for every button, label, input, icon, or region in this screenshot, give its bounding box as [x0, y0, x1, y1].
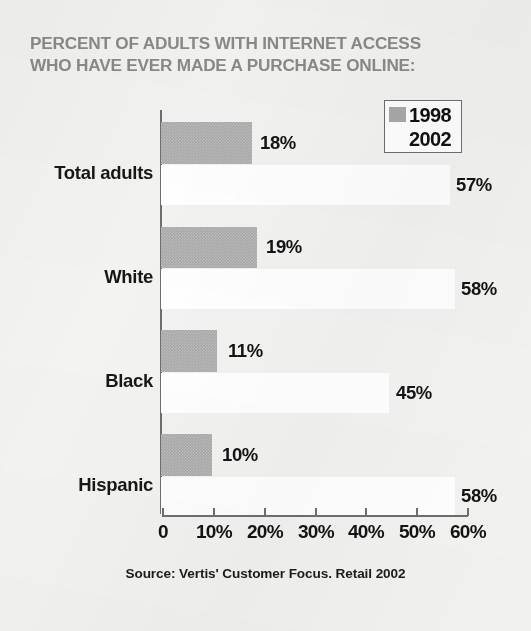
bar-value-total-adults-1998: 18% [260, 134, 296, 153]
bar-total-adults-2002 [161, 165, 450, 205]
bar-value-hispanic-1998: 10% [222, 446, 258, 465]
bar-black-1998 [161, 330, 217, 372]
bar-hispanic-1998 [161, 434, 212, 476]
category-label-total-adults: Total adults [54, 164, 153, 183]
source-note: Source: Vertis' Customer Focus. Retail 2… [0, 566, 531, 581]
bar-value-hispanic-2002: 58% [461, 487, 497, 506]
category-label-black: Black [105, 372, 153, 391]
category-label-white: White [104, 268, 153, 287]
bar-hispanic-2002 [161, 477, 455, 515]
chart-container: PERCENT OF ADULTS WITH INTERNET ACCESS W… [0, 0, 531, 631]
bar-value-white-1998: 19% [266, 238, 302, 257]
bar-black-2002 [161, 373, 389, 413]
bar-value-black-1998: 11% [228, 342, 263, 361]
plot-area: Total adults 18% 57% White 19% 58% Black… [0, 0, 531, 631]
bar-value-black-2002: 45% [396, 384, 432, 403]
bar-value-white-2002: 58% [461, 280, 497, 299]
bar-white-2002 [161, 269, 455, 309]
bar-white-1998 [161, 227, 257, 268]
bar-value-total-adults-2002: 57% [456, 176, 492, 195]
bar-total-adults-1998 [161, 122, 252, 164]
category-label-hispanic: Hispanic [78, 476, 153, 495]
